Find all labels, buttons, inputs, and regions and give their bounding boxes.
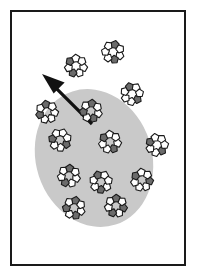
- figure-panel: [0, 0, 198, 278]
- figure-canvas: [0, 0, 198, 278]
